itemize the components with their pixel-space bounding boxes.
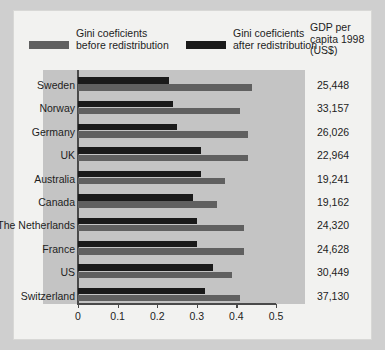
bar-before-redistribution — [78, 84, 252, 91]
table-row: Switzerland37,130 — [14, 285, 371, 308]
country-label: Switzerland — [21, 290, 75, 302]
bar-before-redistribution — [78, 131, 248, 138]
x-tick-label: 0.1 — [110, 310, 125, 322]
bar-after-redistribution — [78, 264, 213, 271]
bar-before-redistribution — [78, 248, 244, 255]
table-row: Sweden25,448 — [14, 74, 371, 97]
gdp-value: 37,130 — [317, 290, 349, 302]
x-tick-label: 0.2 — [150, 310, 165, 322]
x-tick-mark — [78, 304, 79, 308]
chart-card: Gini coeficients before redistribution G… — [14, 11, 371, 339]
bar-before-redistribution — [78, 201, 217, 208]
bar-after-redistribution — [78, 288, 205, 295]
table-row: UK22,964 — [14, 144, 371, 167]
bar-after-redistribution — [78, 147, 201, 154]
x-tick-mark — [118, 304, 119, 308]
gdp-value: 22,964 — [317, 149, 349, 161]
bar-after-redistribution — [78, 218, 197, 225]
legend-entry-before: Gini coeficients before redistribution — [29, 28, 169, 51]
legend-swatch-after-icon — [186, 41, 226, 49]
table-row: US30,449 — [14, 261, 371, 284]
x-tick-mark — [236, 304, 237, 308]
bar-before-redistribution — [78, 272, 232, 279]
gdp-value: 25,448 — [317, 79, 349, 91]
gdp-value: 33,157 — [317, 102, 349, 114]
table-row: Germany26,026 — [14, 121, 371, 144]
x-tick-label: 0 — [75, 310, 81, 322]
country-label: Canada — [38, 196, 75, 208]
gdp-value: 26,026 — [317, 126, 349, 138]
gdp-value: 19,162 — [317, 196, 349, 208]
x-tick-label: 0.3 — [189, 310, 204, 322]
gdp-value: 24,628 — [317, 243, 349, 255]
bar-before-redistribution — [78, 225, 244, 232]
country-label: UK — [60, 149, 75, 161]
gdp-value: 19,241 — [317, 173, 349, 185]
table-row: Norway33,157 — [14, 97, 371, 120]
x-tick-mark — [197, 304, 198, 308]
country-label: US — [60, 266, 75, 278]
chart-legend: Gini coeficients before redistribution G… — [14, 11, 371, 69]
chart-figure: Gini coeficients before redistribution G… — [0, 0, 385, 350]
bar-before-redistribution — [78, 155, 248, 162]
bar-after-redistribution — [78, 194, 193, 201]
gdp-value: 24,320 — [317, 219, 349, 231]
bar-after-redistribution — [78, 124, 177, 131]
x-tick-mark — [157, 304, 158, 308]
bar-after-redistribution — [78, 171, 201, 178]
bar-after-redistribution — [78, 101, 173, 108]
x-tick-label: 0.4 — [229, 310, 244, 322]
table-row: Canada19,162 — [14, 191, 371, 214]
bar-after-redistribution — [78, 77, 169, 84]
table-row: Australia19,241 — [14, 168, 371, 191]
country-label: France — [42, 243, 75, 255]
country-label: Sweden — [37, 79, 75, 91]
country-label: Norway — [39, 102, 75, 114]
legend-label-before: Gini coeficients before redistribution — [76, 28, 169, 51]
legend-label-after: Gini coeficients after redistribution — [233, 28, 317, 51]
x-tick-label: 0.5 — [269, 310, 284, 322]
country-label: The Netherlands — [0, 219, 75, 231]
gdp-value: 30,449 — [317, 266, 349, 278]
bar-after-redistribution — [78, 241, 197, 248]
country-label: Germany — [32, 126, 75, 138]
bar-before-redistribution — [78, 178, 225, 185]
legend-entry-after: Gini coeficients after redistribution — [186, 28, 317, 51]
table-row: The Netherlands24,320 — [14, 214, 371, 237]
legend-swatch-before-icon — [29, 41, 69, 49]
x-tick-mark — [276, 304, 277, 308]
country-label: Australia — [34, 173, 75, 185]
table-row: France24,628 — [14, 238, 371, 261]
bar-before-redistribution — [78, 108, 240, 115]
bar-before-redistribution — [78, 295, 240, 302]
gdp-column-header: GDP per capita 1998 (US$) — [310, 22, 364, 57]
